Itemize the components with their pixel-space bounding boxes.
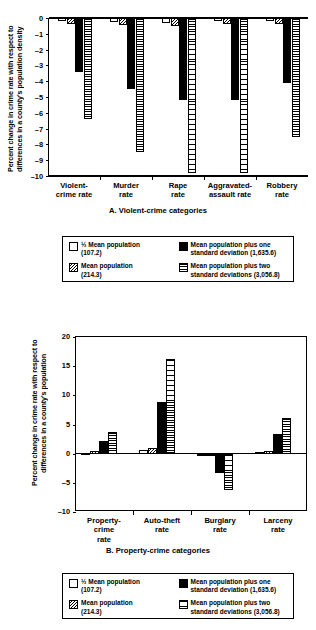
x-axis-category-label: Property- crime rate — [75, 516, 133, 544]
legend-top: ½ Mean population (107.2) Mean populatio… — [62, 236, 294, 282]
y-axis-tick-label: 15 — [53, 361, 70, 370]
legend-column-right: Mean population plus one standard deviat… — [179, 241, 289, 279]
y-axis-tick — [73, 512, 77, 513]
legend-item: Mean population plus two standard deviat… — [179, 262, 289, 278]
y-axis-tick-label: –10 — [53, 507, 70, 516]
chart-panel-violent-crime: Percent change in crime rate with respec… — [0, 0, 316, 232]
bar — [58, 18, 66, 21]
legend-item: Mean population plus one standard deviat… — [179, 578, 289, 594]
bar — [108, 432, 117, 454]
y-axis-label-a: Percent change in crime rate with respec… — [6, 14, 28, 184]
plot-area-b — [75, 336, 307, 511]
category-separator — [191, 511, 192, 515]
x-axis-category-label: Murder rate — [100, 181, 152, 200]
legend-label: ½ Mean population (107.2) — [81, 578, 140, 594]
category-separator — [100, 176, 101, 180]
bar — [224, 454, 233, 490]
category-separator — [256, 176, 257, 180]
y-axis-tick — [46, 113, 50, 114]
x-axis-category-label: Robbery rate — [256, 181, 308, 200]
x-axis-baseline — [49, 175, 308, 176]
y-axis-tick — [46, 18, 50, 19]
chart-b: Percent change in crime rate with respec… — [0, 318, 316, 568]
bar — [166, 359, 175, 454]
y-axis-tick — [73, 454, 77, 455]
y-axis-tick-label: –10 — [26, 172, 43, 181]
bar — [188, 18, 196, 173]
bar — [157, 402, 166, 454]
bar — [171, 18, 179, 26]
bar — [148, 448, 157, 454]
y-axis-tick — [73, 366, 77, 367]
legend-item: Mean population plus two standard deviat… — [179, 599, 289, 615]
legend-bottom: ½ Mean population (107.2) Mean populatio… — [62, 573, 294, 619]
bar — [266, 18, 274, 21]
category-separator — [204, 176, 205, 180]
plot-area-a — [48, 18, 308, 176]
x-axis-category-label: Violent- crime rate — [48, 181, 100, 200]
legend-label: Mean population (214.3) — [81, 262, 133, 278]
bar — [75, 18, 83, 72]
x-axis-category-label: Burglary rate — [191, 516, 249, 535]
bar — [127, 18, 135, 89]
y-axis-tick — [46, 97, 50, 98]
legend-label: ½ Mean population (107.2) — [81, 241, 140, 257]
bar — [179, 18, 187, 100]
category-separator — [249, 511, 250, 515]
legend-swatch-plus-two-sd-icon — [179, 600, 188, 609]
legend-swatch-plus-two-sd-icon — [179, 263, 188, 272]
chart-caption-b: B. Property-crime categories — [0, 546, 316, 555]
bar — [162, 18, 170, 23]
legend-label: Mean population (214.3) — [81, 599, 133, 615]
bar — [81, 453, 90, 455]
category-separator — [152, 176, 153, 180]
legend-item: ½ Mean population (107.2) — [69, 578, 179, 594]
bar — [292, 18, 300, 137]
y-axis-tick-label: –7 — [26, 124, 43, 133]
y-axis-tick — [46, 81, 50, 82]
y-axis-tick-label: 10 — [53, 390, 70, 399]
y-axis-tick-label: –5 — [53, 477, 70, 486]
legend-swatch-mean-icon — [69, 263, 78, 272]
bar — [273, 434, 282, 453]
y-axis-tick-label: –6 — [26, 108, 43, 117]
bar — [264, 451, 273, 453]
y-axis-tick — [46, 129, 50, 130]
x-axis-category-label: Larceny rate — [249, 516, 307, 535]
chart-panel-property-crime: Percent change in crime rate with respec… — [0, 318, 316, 568]
bar — [99, 441, 108, 454]
y-axis-tick — [46, 65, 50, 66]
legend-label: Mean population plus one standard deviat… — [191, 578, 277, 594]
bar — [223, 18, 231, 24]
bar — [282, 418, 291, 454]
legend-label: Mean population plus two standard deviat… — [191, 599, 280, 615]
y-axis-tick-label: –1 — [26, 29, 43, 38]
y-axis-tick — [46, 34, 50, 35]
legend-swatch-plus-one-sd-icon — [179, 579, 188, 588]
y-axis-tick-label: 20 — [53, 332, 70, 341]
bar — [275, 18, 283, 24]
y-axis-tick-label: –3 — [26, 61, 43, 70]
x-axis-category-label: Aggravated- assault rate — [204, 181, 256, 200]
y-axis-tick-label: 5 — [53, 419, 70, 428]
bar — [283, 18, 291, 83]
legend-swatch-half-mean-icon — [69, 242, 78, 251]
bar — [215, 454, 224, 473]
bar — [231, 18, 239, 100]
legend-item: Mean population (214.3) — [69, 262, 179, 278]
y-axis-tick-label: –4 — [26, 77, 43, 86]
y-axis-tick — [73, 483, 77, 484]
bar — [67, 18, 75, 24]
y-axis-tick — [73, 425, 77, 426]
legend-swatch-plus-one-sd-icon — [179, 242, 188, 251]
chart-a: Percent change in crime rate with respec… — [0, 0, 316, 232]
y-axis-tick-label: –5 — [26, 93, 43, 102]
bar — [139, 450, 148, 454]
legend-column-left: ½ Mean population (107.2) Mean populatio… — [69, 578, 179, 616]
legend-swatch-half-mean-icon — [69, 579, 78, 588]
chart-caption-a: A. Violent-crime categories — [0, 206, 316, 215]
y-axis-tick — [46, 160, 50, 161]
bar — [206, 454, 215, 456]
y-axis-tick — [73, 395, 77, 396]
legend-item: Mean population plus one standard deviat… — [179, 241, 289, 257]
